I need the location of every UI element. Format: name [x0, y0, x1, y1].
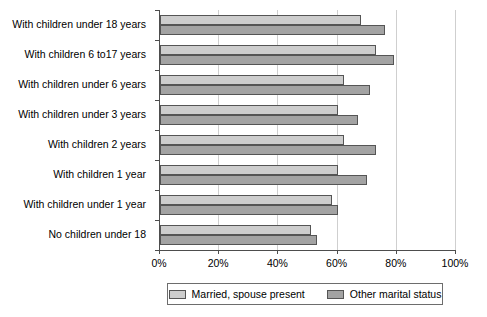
- y-axis-tick: [155, 10, 159, 11]
- x-axis-tick-label: 40%: [267, 257, 288, 269]
- y-axis-tick: [155, 40, 159, 41]
- bar: [160, 15, 361, 25]
- bar: [160, 115, 358, 125]
- bar: [160, 235, 317, 245]
- legend-label: Married, spouse present: [192, 288, 305, 300]
- category-label: With children 6 to17 years: [25, 49, 146, 60]
- bar: [160, 135, 344, 145]
- x-axis-tick-label: 0%: [151, 257, 166, 269]
- bar: [160, 25, 385, 35]
- category-label: With children under 18 years: [12, 19, 146, 30]
- bar: [160, 75, 344, 85]
- bar: [160, 205, 338, 215]
- legend-swatch-icon: [327, 290, 344, 299]
- bar: [160, 145, 376, 155]
- category-label: With children 1 year: [53, 169, 146, 180]
- y-axis-tick: [155, 250, 159, 251]
- bar: [160, 225, 311, 235]
- category-axis-labels: With children under 18 yearsWith childre…: [0, 10, 152, 250]
- legend-label: Other marital status: [350, 288, 442, 300]
- x-axis-tick-label: 20%: [208, 257, 229, 269]
- y-axis-tick: [155, 190, 159, 191]
- gridline: [396, 10, 397, 250]
- bar: [160, 165, 338, 175]
- legend-item-other: Other marital status: [327, 288, 442, 300]
- x-axis-line: [159, 250, 456, 251]
- bar: [160, 55, 394, 65]
- plot-area: 0%20%40%60%80%100%: [159, 10, 455, 250]
- bar: [160, 175, 367, 185]
- y-axis-tick: [155, 160, 159, 161]
- y-axis-tick: [155, 70, 159, 71]
- y-axis-tick: [155, 220, 159, 221]
- x-axis-tick: [337, 250, 338, 254]
- bar: [160, 195, 332, 205]
- category-label: No children under 18: [49, 229, 146, 240]
- bar: [160, 45, 376, 55]
- x-axis-tick-label: 60%: [326, 257, 347, 269]
- x-axis-tick: [455, 250, 456, 254]
- x-axis-tick: [218, 250, 219, 254]
- bar: [160, 85, 370, 95]
- x-axis-tick-label: 100%: [442, 257, 469, 269]
- bar-chart: With children under 18 yearsWith childre…: [0, 0, 487, 317]
- x-axis-tick: [277, 250, 278, 254]
- x-axis-tick: [159, 250, 160, 254]
- x-axis-tick: [396, 250, 397, 254]
- chart-legend: Married, spouse present Other marital st…: [167, 283, 443, 305]
- x-axis-tick-label: 80%: [385, 257, 406, 269]
- category-label: With children under 3 years: [18, 109, 146, 120]
- gridline: [455, 10, 456, 250]
- legend-swatch-icon: [169, 290, 186, 299]
- category-label: With children under 1 year: [23, 199, 146, 210]
- y-axis-tick: [155, 130, 159, 131]
- category-label: With children under 6 years: [18, 79, 146, 90]
- category-label: With children 2 years: [48, 139, 146, 150]
- plot-area-wrapper: With children under 18 yearsWith childre…: [0, 0, 487, 270]
- y-axis-tick: [155, 100, 159, 101]
- legend-item-married: Married, spouse present: [169, 288, 305, 300]
- bar: [160, 105, 338, 115]
